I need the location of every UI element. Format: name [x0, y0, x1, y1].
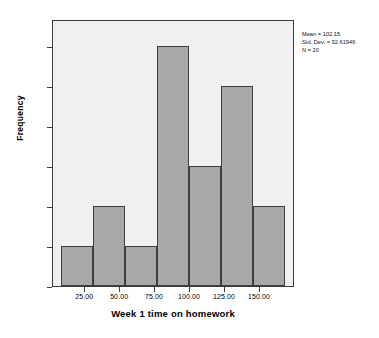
x-tick-label: 150.00 — [237, 293, 281, 300]
plot-area — [53, 21, 293, 286]
plot-frame — [52, 20, 294, 287]
histogram-bar — [157, 46, 189, 286]
x-tick-mark — [189, 287, 190, 292]
histogram-bar — [61, 246, 93, 286]
y-tick-mark — [47, 207, 52, 208]
histogram-bar — [253, 206, 285, 286]
x-axis: Week 1 time on homework 25.0050.0075.001… — [0, 287, 379, 338]
std-dev-value: Std. Dev. = 32.61946 — [302, 38, 378, 46]
x-tick-mark — [84, 287, 85, 292]
histogram-bar — [221, 86, 253, 286]
statistics-annotation: Mean = 102.15 Std. Dev. = 32.61946 N = 2… — [302, 30, 378, 54]
x-tick-mark — [154, 287, 155, 292]
x-tick-mark — [224, 287, 225, 292]
y-tick-mark — [47, 127, 52, 128]
y-tick-mark — [47, 87, 52, 88]
histogram-figure: Frequency 0.01.02.03.04.05.06.0 Week 1 t… — [0, 0, 379, 338]
histogram-bar — [189, 166, 221, 286]
histogram-bar — [93, 206, 125, 286]
x-tick-mark — [119, 287, 120, 292]
y-tick-mark — [47, 247, 52, 248]
sample-size-value: N = 20 — [302, 46, 378, 54]
x-tick-mark — [259, 287, 260, 292]
x-axis-title: Week 1 time on homework — [52, 308, 294, 319]
y-tick-mark — [47, 167, 52, 168]
y-tick-mark — [47, 47, 52, 48]
mean-value: Mean = 102.15 — [302, 30, 378, 38]
histogram-bar — [125, 246, 157, 286]
y-axis-title: Frequency — [15, 58, 25, 178]
